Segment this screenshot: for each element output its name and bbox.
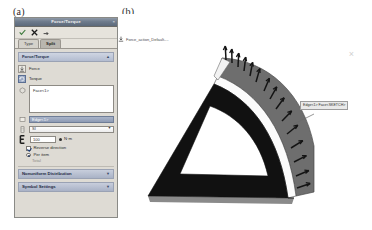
tab-type[interactable]: Type: [18, 39, 39, 48]
group-title: Nonuniform Distribution: [22, 172, 72, 176]
unit-system-row[interactable]: SI ▼: [18, 125, 114, 133]
checkbox-icon[interactable]: [26, 146, 31, 151]
close-icon[interactable]: ×: [112, 19, 115, 25]
panel-title: Force/Torque: [51, 20, 81, 24]
chevron-down-icon[interactable]: ▼: [108, 127, 111, 130]
chevron-down-icon[interactable]: ▼: [106, 185, 110, 189]
option-total-label: Total: [32, 159, 41, 163]
unit-system-value: SI: [32, 127, 36, 131]
load-type-torque[interactable]: Torque: [18, 75, 114, 83]
face-selection-row[interactable]: Face<1>: [18, 85, 114, 113]
reference-field-row[interactable]: Edge<1>: [18, 115, 114, 123]
force-arrow-icon[interactable]: [18, 65, 26, 73]
option-reverse-direction-label: Reverse direction: [34, 146, 67, 150]
load-type-torque-label: Torque: [29, 77, 42, 81]
reference-field[interactable]: Edge<1>: [29, 116, 114, 123]
group-header-force-torque[interactable]: Force/Torque ▲: [18, 52, 114, 62]
units-icon: [18, 125, 26, 133]
radio-icon[interactable]: [26, 153, 31, 158]
unit-system-combobox[interactable]: SI ▼: [29, 126, 114, 133]
tab-split[interactable]: Split: [40, 39, 61, 48]
x-icon[interactable]: [31, 29, 38, 36]
group-header-symbol-settings[interactable]: Symbol Settings ▼: [18, 182, 114, 192]
torque-icon[interactable]: [18, 75, 26, 83]
panel-toolbar: [15, 27, 117, 39]
figure-label-a: (a): [13, 6, 25, 17]
load-type-force[interactable]: Force: [18, 65, 114, 73]
panel-body: Force/Torque ▲ Force Torque Face<1>: [15, 49, 117, 192]
model-graphic: [118, 14, 370, 228]
reference-plane-icon: [18, 115, 26, 123]
face-select-icon: [18, 86, 26, 94]
load-type-force-label: Force: [29, 67, 40, 71]
group-title: Symbol Settings: [22, 185, 56, 189]
check-icon[interactable]: [19, 29, 26, 36]
option-reverse-direction[interactable]: Reverse direction: [26, 146, 114, 151]
option-per-item-label: Per item: [34, 153, 50, 157]
divider: [18, 166, 114, 167]
force-torque-property-manager: Force/Torque × Type Split Force/Torque ▲…: [14, 17, 118, 218]
magnitude-row[interactable]: 100 N·m: [18, 135, 114, 144]
unit-marker-icon: [59, 138, 62, 141]
magnitude-input[interactable]: 100: [30, 136, 56, 143]
cad-viewport[interactable]: Force_action_Default-... ×: [118, 14, 370, 228]
unit-label: N·m: [64, 137, 72, 141]
chevron-up-icon[interactable]: ▲: [106, 55, 110, 59]
unit-label-group: N·m: [59, 137, 72, 141]
list-item[interactable]: Face<1>: [32, 88, 111, 93]
group-header-nonuniform-distribution[interactable]: Nonuniform Distribution ▼: [18, 169, 114, 179]
panel-tabs: Type Split: [15, 39, 117, 49]
option-total[interactable]: Total: [32, 159, 114, 163]
value-icon: [18, 135, 27, 144]
help-icon[interactable]: [43, 29, 50, 36]
chevron-down-icon[interactable]: ▼: [106, 172, 110, 176]
edge-callout-label: Edge<1> Face<SKETCH>: [300, 101, 348, 110]
panel-titlebar: Force/Torque ×: [15, 18, 117, 27]
group-title: Force/Torque: [22, 55, 49, 59]
face-selection-list[interactable]: Face<1>: [29, 85, 114, 113]
option-per-item[interactable]: Per item: [26, 153, 114, 158]
